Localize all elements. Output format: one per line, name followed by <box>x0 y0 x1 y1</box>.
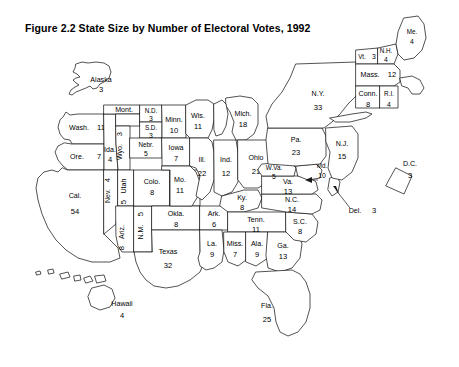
michigan-upper-peninsula <box>214 100 228 136</box>
newjersey-votes: 15 <box>338 152 346 161</box>
virginia-label: Va. <box>283 178 293 186</box>
arkansas-votes: 6 <box>212 220 216 229</box>
mississippi-votes: 7 <box>233 250 237 259</box>
washington-label: Wash. <box>69 124 89 132</box>
ohio-label: Ohio <box>249 154 264 162</box>
dc-label: D.C. <box>403 160 417 168</box>
idaho-votes: 4 <box>108 155 112 164</box>
missouri-votes: 11 <box>176 186 184 195</box>
state-shape-mississippi[interactable] <box>224 232 246 266</box>
arizona-votes: 8 <box>117 246 126 250</box>
wisconsin-votes: 11 <box>194 122 202 131</box>
hawaii-label: Hawaii <box>111 300 133 308</box>
figure-container: Figure 2.2 State Size by Number of Elect… <box>0 0 459 367</box>
state-shape-indiana[interactable] <box>214 140 238 196</box>
newyork-label: N.Y. <box>312 90 325 98</box>
california-votes: 54 <box>71 207 79 216</box>
massachusetts-label: Mass. <box>361 71 380 79</box>
electoral-cartogram: Alaska 3 Wash. 11 Ore. 7 Cal. 54 Ida. 4 … <box>0 0 459 367</box>
nevada-votes: 4 <box>103 178 112 182</box>
louisiana-votes: 9 <box>210 250 214 259</box>
indiana-votes: 12 <box>222 169 230 178</box>
rhodeisland-votes: 4 <box>387 101 391 108</box>
florida-votes: 25 <box>263 315 271 324</box>
delaware-votes: 3 <box>372 206 376 215</box>
state-shape-montana-lower <box>116 114 140 126</box>
newmexico-label: N.M. <box>137 224 145 239</box>
kentucky-label: Ky. <box>237 194 247 202</box>
maine-label: Me. <box>407 28 418 35</box>
state-shape-alabama[interactable] <box>246 232 268 266</box>
southcarolina-label: S.C. <box>293 218 307 226</box>
massachusetts-votes: 12 <box>388 70 396 79</box>
montana-label: Mont. <box>115 106 133 114</box>
missouri-label: Mo. <box>174 176 186 184</box>
rhodeisland-label: R.I. <box>384 90 394 97</box>
wyoming-votes: 3 <box>115 132 124 136</box>
utah-label: Utah <box>120 178 128 193</box>
wyoming-label: Wyo. <box>116 144 124 160</box>
hawaii-island-2 <box>48 269 54 274</box>
westvirginia-votes: 5 <box>272 173 276 180</box>
vermont-label: Vt. <box>358 53 366 60</box>
oklahoma-votes: 8 <box>174 220 178 229</box>
hawaii-votes: 4 <box>120 311 124 320</box>
arkansas-label: Ark. <box>208 210 221 218</box>
newjersey-label: N.J. <box>336 140 349 148</box>
texas-label: Texas <box>159 248 178 256</box>
tennessee-label: Tenn. <box>247 216 264 224</box>
newhampshire-votes: 4 <box>384 56 388 63</box>
northdakota-label: N.D. <box>145 107 158 114</box>
california-label: Cal. <box>69 192 82 200</box>
newyork-votes: 33 <box>314 103 322 112</box>
michigan-votes: 18 <box>239 120 247 129</box>
state-shape-michigan[interactable] <box>226 96 258 140</box>
illinois-votes: 22 <box>198 169 206 178</box>
colorado-votes: 8 <box>150 188 154 197</box>
southcarolina-votes: 8 <box>298 227 302 236</box>
idaho-label: Ida. <box>104 146 116 154</box>
wisconsin-label: Wis. <box>191 112 205 120</box>
nevada-label: Nev. <box>104 189 112 203</box>
nebraska-votes: 5 <box>144 150 148 157</box>
georgia-label: Ga. <box>277 242 288 250</box>
hawaii-island-3 <box>60 272 70 279</box>
delaware-label: Del. <box>349 207 362 215</box>
arizona-label: Ariz. <box>118 225 126 239</box>
newhampshire-label: N.H. <box>380 47 393 54</box>
louisiana-label: La. <box>207 240 217 248</box>
hawaii-island-5 <box>84 276 93 283</box>
iowa-label: Iowa <box>169 144 184 152</box>
southdakota-label: S.D. <box>145 124 157 131</box>
kentucky-votes: 8 <box>240 203 244 212</box>
maine-votes: 4 <box>410 38 414 45</box>
minnesota-votes: 10 <box>170 126 178 135</box>
oregon-votes: 7 <box>97 152 101 161</box>
mississippi-label: Miss. <box>227 240 244 248</box>
northcarolina-label: N.C. <box>285 196 299 204</box>
northdakota-votes: 3 <box>149 115 153 122</box>
connecticut-label: Conn. <box>359 90 378 98</box>
hawaii-island-4 <box>74 275 81 281</box>
florida-label: Fla. <box>261 302 273 310</box>
newmexico-votes: 5 <box>136 212 145 216</box>
connecticut-votes: 8 <box>366 100 370 109</box>
alaska-label: Alaska <box>90 76 111 84</box>
oklahoma-label: Okla. <box>168 210 185 218</box>
vermont-votes: 3 <box>372 53 376 60</box>
nebraska-label: Nebr. <box>138 141 153 148</box>
hawaii-island-chain[interactable] <box>36 269 115 310</box>
pennsylvania-label: Pa. <box>291 136 302 144</box>
alaska-votes: 3 <box>99 85 103 94</box>
pennsylvania-votes: 23 <box>292 148 300 157</box>
texas-votes: 32 <box>164 261 172 270</box>
colorado-label: Colo. <box>144 178 161 186</box>
indiana-label: Ind. <box>220 156 232 164</box>
iowa-votes: 7 <box>174 154 178 163</box>
georgia-votes: 13 <box>279 252 287 261</box>
state-shape-pennsylvania[interactable] <box>266 128 326 166</box>
oregon-label: Ore. <box>70 153 84 161</box>
hawaii-island-6 <box>95 275 106 283</box>
alabama-label: Ala. <box>251 240 263 248</box>
minnesota-label: Minn. <box>165 116 182 124</box>
